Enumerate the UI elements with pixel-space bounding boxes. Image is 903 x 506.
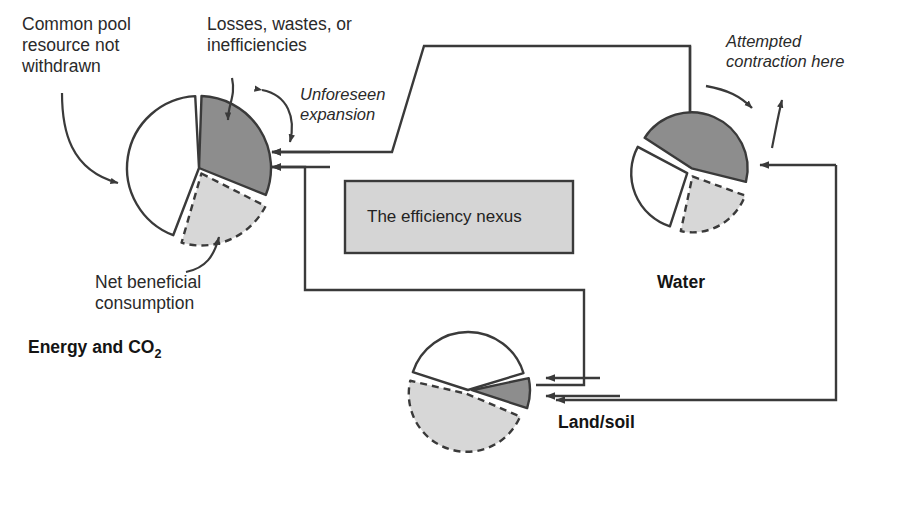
label-losses: Losses, wastes, or inefficiencies <box>207 14 392 56</box>
pie-energy <box>127 96 271 245</box>
pie-title-energy-subscript: 2 <box>154 347 161 361</box>
pie-water <box>631 112 747 232</box>
label-unforeseen-expansion: Unforeseen expansion <box>300 85 430 125</box>
nexus-box-label: The efficiency nexus <box>367 207 522 227</box>
leader-unforeseen-expansion <box>262 90 292 142</box>
label-common-pool: Common pool resource not withdrawn <box>22 14 192 77</box>
leader-common-pool <box>62 93 118 183</box>
label-net-beneficial: Net beneficial consumption <box>95 272 285 314</box>
pie-land <box>409 332 530 452</box>
leader-attempted-contraction <box>706 86 752 108</box>
pie-slice-common-pool-not-withdrawn <box>127 96 199 235</box>
pie-title-energy-text: Energy and CO <box>28 337 154 357</box>
pie-title-water: Water <box>657 272 705 293</box>
pie-slice-common-pool-not-withdrawn <box>413 332 524 390</box>
diagram-canvas: Common pool resource not withdrawn Losse… <box>0 0 903 506</box>
pie-title-energy: Energy and CO2 <box>28 337 161 362</box>
pie-title-land: Land/soil <box>558 412 635 433</box>
leader-contraction-to-water <box>772 100 782 148</box>
pie-slice-net-beneficial-consumption <box>681 176 745 232</box>
label-attempted-contraction: Attempted contraction here <box>726 32 896 72</box>
